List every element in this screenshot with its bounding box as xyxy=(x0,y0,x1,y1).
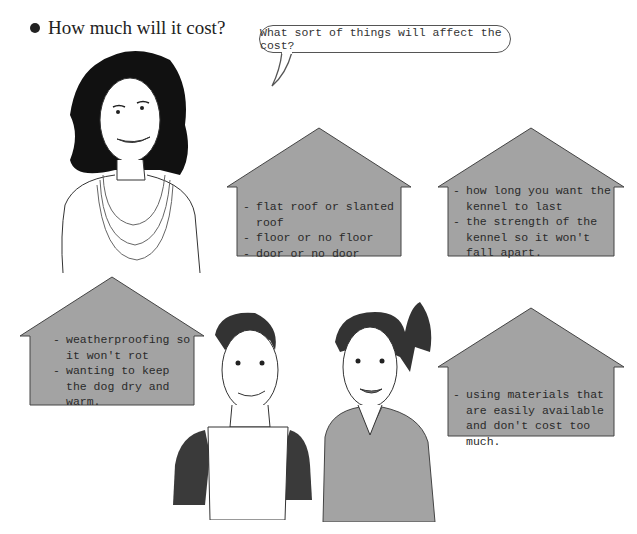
speech-bubble-tail-icon xyxy=(270,52,300,88)
speech-bubble-text: What sort of things will affect the cost… xyxy=(260,26,510,52)
house-item: floor or no floor xyxy=(243,230,413,246)
house-item: using materials that are easily availabl… xyxy=(453,387,618,449)
girl-illustration-icon xyxy=(320,297,440,522)
house-item: door or no door xyxy=(243,246,413,262)
page-heading: How much will it cost? xyxy=(30,17,225,39)
boy-illustration-icon xyxy=(170,305,315,520)
bullet-icon xyxy=(30,23,40,33)
house-item: flat roof or slanted roof xyxy=(243,199,413,230)
woman-illustration-icon xyxy=(55,45,215,275)
house-item: the strength of the kennel so it won't f… xyxy=(453,214,613,261)
speech-bubble: What sort of things will affect the cost… xyxy=(259,25,511,53)
house-card-durability: how long you want the kennel to last the… xyxy=(436,127,626,257)
house-card-design: flat roof or slanted roof floor or no fl… xyxy=(225,127,413,257)
house-item: how long you want the kennel to last xyxy=(453,183,613,214)
heading-text: How much will it cost? xyxy=(48,17,225,39)
house-card-materials: using materials that are easily availabl… xyxy=(436,307,626,437)
